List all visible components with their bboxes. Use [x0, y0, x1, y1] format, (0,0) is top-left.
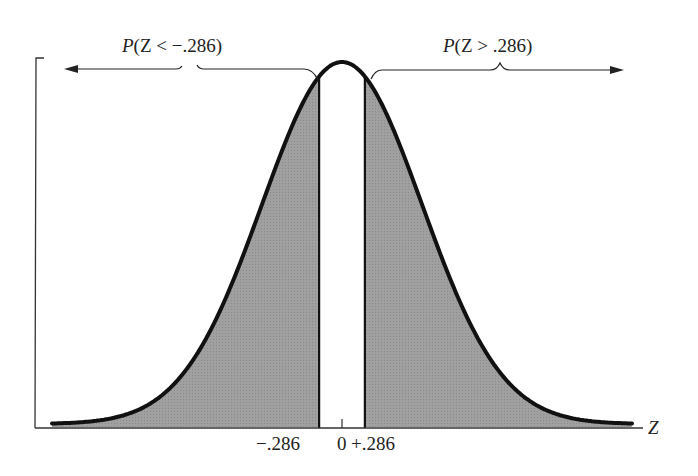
y-axis	[35, 58, 44, 428]
tick-label-positive: +.286	[351, 433, 395, 454]
axis-label-z: Z	[648, 417, 659, 438]
right-arrowhead-icon	[610, 66, 624, 74]
left-probability-label: P(Z < −.286)	[121, 35, 222, 57]
right-annotation	[371, 63, 624, 79]
tick-label-zero: 0	[337, 433, 347, 454]
normal-distribution-figure: P(Z < −.286) P(Z > .286) Z −.286 0 +.286	[0, 0, 698, 476]
tick-label-negative: −.286	[256, 433, 300, 454]
normal-curve	[52, 62, 632, 424]
left-tail-shaded-region	[52, 77, 319, 428]
left-annotation	[64, 65, 318, 80]
right-tail-shaded-region	[365, 77, 632, 428]
right-probability-label: P(Z > .286)	[442, 35, 532, 57]
left-arrowhead-icon	[64, 65, 78, 73]
